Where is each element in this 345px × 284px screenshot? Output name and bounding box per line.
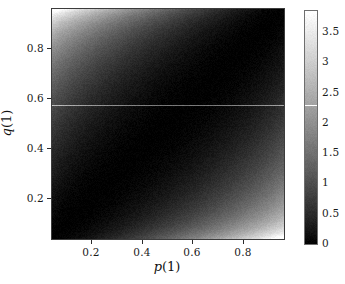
y-tick-mark — [47, 48, 51, 49]
y-tick-label: 0.4 — [27, 142, 44, 154]
colorbar-tick-label: 0.5 — [322, 207, 339, 219]
colorbar-tick-label: 1 — [322, 176, 329, 188]
y-axis-label-var: q — [0, 128, 14, 136]
x-axis-label-arg: (1) — [162, 259, 180, 274]
heatmap-plot-area — [51, 8, 285, 240]
colorbar-tick-label: 3.5 — [322, 25, 339, 37]
x-tick-mark — [142, 240, 143, 244]
x-tick-mark — [192, 240, 193, 244]
colorbar-tick-label: 2 — [322, 116, 329, 128]
colorbar — [304, 10, 318, 245]
y-axis-label: q(1) — [0, 110, 14, 137]
y-tick-label: 0.8 — [27, 42, 44, 54]
x-tick-mark — [91, 240, 92, 244]
colorbar-gradient — [305, 11, 317, 244]
colorbar-tick-label: 1.5 — [322, 146, 339, 158]
x-tick-label: 0.4 — [133, 246, 150, 258]
y-tick-label: 0.2 — [27, 192, 44, 204]
y-tick-mark — [47, 198, 51, 199]
y-axis-label-arg: (1) — [0, 110, 14, 128]
x-tick-mark — [243, 240, 244, 244]
x-axis-label: p(1) — [154, 259, 181, 274]
heatmap-image — [52, 9, 284, 239]
y-tick-mark — [47, 98, 51, 99]
y-tick-mark — [47, 148, 51, 149]
x-tick-label: 0.8 — [234, 246, 251, 258]
colorbar-tick-label: 2.5 — [322, 86, 339, 98]
colorbar-tick-label: 0 — [322, 237, 329, 249]
colorbar-tick-label: 3 — [322, 55, 329, 67]
y-tick-label: 0.6 — [27, 92, 44, 104]
heatmap-figure: 0.20.40.60.8 0.20.40.60.8 p(1) q(1) 3.53… — [0, 0, 345, 284]
x-tick-label: 0.2 — [82, 246, 99, 258]
x-tick-label: 0.6 — [183, 246, 200, 258]
